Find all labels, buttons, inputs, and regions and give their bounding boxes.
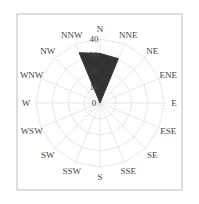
radial-tick-label: 40 (90, 34, 100, 44)
radial-tick-label: 0 (92, 98, 97, 108)
direction-label: SW (41, 150, 55, 160)
direction-label: S (97, 172, 102, 182)
grid-spoke (55, 103, 100, 148)
radial-tick-label: 30 (90, 50, 100, 60)
direction-label: SSW (62, 166, 81, 176)
grid-spoke (100, 103, 145, 148)
direction-label: WNW (20, 70, 44, 80)
direction-label: ESE (160, 126, 177, 136)
direction-label: NW (40, 46, 55, 56)
direction-label: W (22, 98, 31, 108)
direction-label: SE (147, 150, 158, 160)
direction-label: N (97, 24, 104, 34)
direction-label: NNE (119, 30, 138, 40)
data-area (79, 53, 118, 103)
radial-tick-label: 20 (90, 66, 100, 76)
wind-rose-chart: NNNENEENEEESESESSESSSWSWWSWWWNWNWNNW0102… (0, 0, 199, 204)
chart-svg: NNNENEENEEESESESSESSSWSWWSWWWNWNWNNW0102… (0, 0, 199, 204)
direction-label: ENE (160, 70, 178, 80)
direction-label: E (171, 98, 177, 108)
direction-label: SSE (121, 166, 137, 176)
radial-tick-label: 10 (90, 82, 100, 92)
direction-label: NE (146, 46, 158, 56)
direction-label: NNW (61, 30, 83, 40)
direction-label: WSW (21, 126, 44, 136)
